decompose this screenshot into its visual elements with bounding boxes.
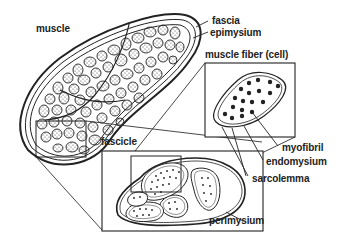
label-fascicle: fascicle [101,137,137,147]
label-muscle: muscle [36,24,70,34]
label-perimysium: perimysium [209,216,264,226]
muscle-fascicles [37,20,184,154]
label-epimysium: epimysium [210,28,261,38]
label-muscle-fiber: muscle fiber (cell) [205,50,288,60]
muscle-anatomy-diagram: muscle fascia epimysium muscle fiber (ce… [0,0,338,243]
label-endomysium: endomysium [266,157,327,167]
label-myofibril: myofibril [282,143,323,153]
label-fascia: fascia [212,16,240,26]
label-sarcolemma: sarcolemma [252,174,309,184]
diagram-artwork [0,0,338,243]
